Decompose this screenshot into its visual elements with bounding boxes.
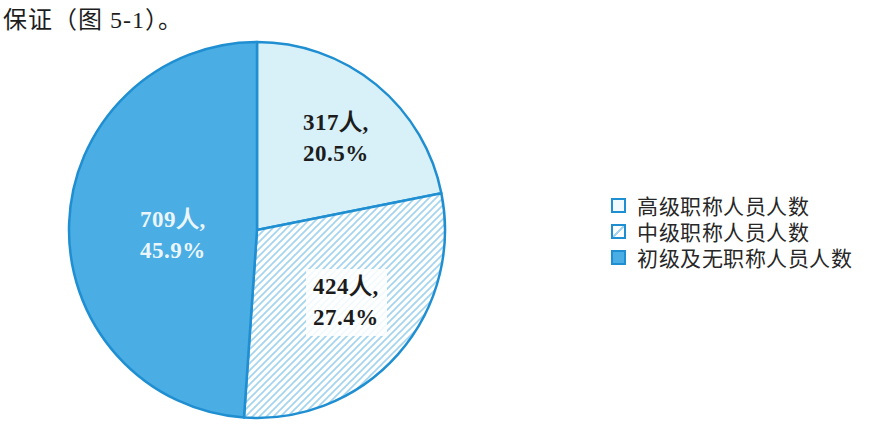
- legend-row-mid: 中级职称人员人数: [611, 218, 852, 244]
- pie-label-senior-percent: 20.5%: [303, 138, 369, 169]
- legend-swatch-light-icon: [611, 198, 626, 213]
- pie-label-mid-count: 424人,: [313, 271, 379, 302]
- legend: 高级职称人员人数 中级职称人员人数 初级及无职称人员人数: [611, 192, 852, 270]
- legend-swatch-hatch-icon: [611, 224, 626, 239]
- pie-label-junior: 709人, 45.9%: [140, 204, 206, 266]
- figure-page: 保证（图 5-1）。 317人, 20.5% 424人, 27.4% 709人,…: [0, 0, 879, 436]
- pie-label-mid-percent: 27.4%: [313, 302, 379, 333]
- pie-label-junior-count: 709人,: [140, 204, 206, 235]
- intro-text: 保证（图 5-1）。: [3, 0, 183, 35]
- pie-label-senior: 317人, 20.5%: [303, 107, 369, 169]
- legend-swatch-solid-icon: [611, 250, 626, 265]
- legend-label-junior: 初级及无职称人员人数: [637, 242, 852, 272]
- pie-label-mid: 424人, 27.4%: [306, 269, 387, 336]
- legend-row-junior: 初级及无职称人员人数: [611, 244, 852, 270]
- legend-row-senior: 高级职称人员人数: [611, 192, 852, 218]
- pie-label-junior-percent: 45.9%: [140, 235, 206, 266]
- pie-slices: [69, 42, 445, 418]
- pie-chart: [61, 34, 453, 426]
- pie-label-senior-count: 317人,: [303, 107, 369, 138]
